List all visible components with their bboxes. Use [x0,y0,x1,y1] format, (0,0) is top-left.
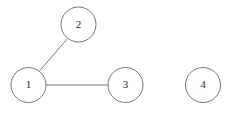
node-1-label: 1 [26,78,32,90]
graph-diagram-canvas: 1 2 3 4 [0,0,230,117]
node-2[interactable]: 2 [61,7,96,42]
node-2-label: 2 [76,18,82,30]
edge-group [40,39,108,85]
node-group: 1 2 3 4 [11,7,221,103]
node-4[interactable]: 4 [186,68,221,103]
node-3-label: 3 [123,78,129,90]
node-1[interactable]: 1 [11,68,46,103]
node-3[interactable]: 3 [108,68,143,103]
edge-node1-node2[interactable] [40,39,67,70]
graph-svg: 1 2 3 4 [0,0,230,117]
node-4-label: 4 [200,78,206,90]
